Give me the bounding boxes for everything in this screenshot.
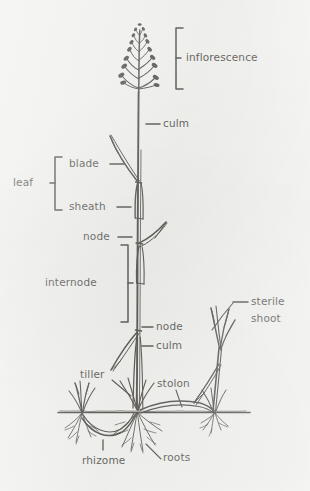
label-rhizome: rhizome: [82, 455, 125, 466]
label-leaf: leaf: [13, 177, 33, 188]
inflorescence-panicle: [117, 23, 160, 92]
diagram-svg: [0, 0, 310, 491]
mid-leaf-blade: [139, 222, 167, 247]
tiller-shoot: [69, 381, 95, 412]
soil-line: [58, 411, 250, 413]
label-sterile-shoot-line1: sterile: [251, 296, 285, 307]
inflorescence-bracket: [176, 28, 183, 89]
label-node-upper: node: [83, 231, 110, 242]
label-culm-upper: culm: [163, 118, 189, 129]
internode-bracket: [121, 245, 133, 322]
grass-morphology-diagram: inflorescence culm blade leaf sheath nod…: [0, 0, 310, 491]
label-internode: internode: [45, 277, 97, 288]
label-node-lower: node: [156, 321, 183, 332]
label-sterile-shoot-line2: shoot: [251, 313, 281, 324]
label-inflorescence: inflorescence: [186, 52, 258, 63]
upper-leaf-blade: [110, 135, 140, 182]
sterile-shoot-leader-line: [212, 303, 233, 330]
label-roots: roots: [163, 452, 190, 463]
label-blade: blade: [69, 158, 99, 169]
upper-leaf-sheath: [135, 182, 143, 219]
label-stolon: stolon: [157, 378, 190, 389]
label-culm-lower: culm: [156, 340, 182, 351]
label-sheath: sheath: [69, 201, 106, 212]
sterile-shoot-roots: [200, 413, 228, 436]
stolon-leader: [176, 390, 182, 407]
roots-leader: [146, 444, 161, 459]
label-tiller: tiller: [80, 369, 105, 380]
leaf-bracket: [50, 157, 62, 210]
sterile-shoot: [194, 306, 235, 411]
